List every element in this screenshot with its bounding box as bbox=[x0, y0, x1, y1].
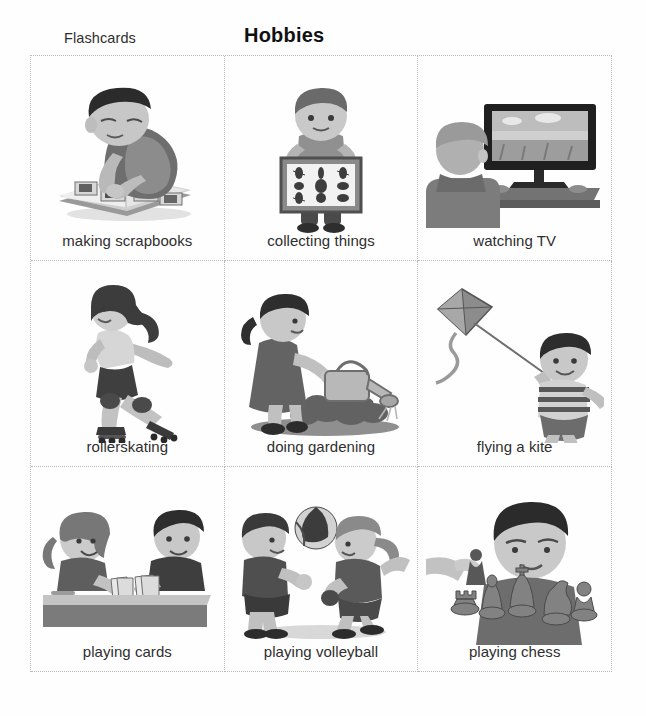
page-title: Hobbies bbox=[244, 24, 324, 47]
boy-insect-collection-illustration bbox=[225, 56, 418, 260]
flashcard-playing-volleyball[interactable]: playing volleyball bbox=[225, 467, 419, 672]
boy-scrapbook-illustration bbox=[31, 56, 224, 260]
girl-rollerskating-illustration bbox=[31, 261, 224, 465]
flashcard-label: watching TV bbox=[473, 233, 556, 248]
person-watching-television-illustration bbox=[418, 56, 611, 260]
flashcard-label: flying a kite bbox=[477, 439, 553, 454]
flashcards-label: Flashcards bbox=[64, 30, 136, 46]
flashcard-label: playing cards bbox=[83, 644, 172, 659]
flashcard-playing-cards[interactable]: playing cards bbox=[31, 467, 225, 672]
flashcard-grid: making scrapbooks bbox=[30, 55, 612, 672]
boy-flying-kite-illustration bbox=[418, 261, 611, 465]
two-children-playing-cards-illustration bbox=[31, 467, 224, 671]
flashcard-collecting-things[interactable]: collecting things bbox=[225, 56, 419, 261]
flashcard-watching-tv[interactable]: watching TV bbox=[418, 56, 612, 261]
boy-playing-chess-illustration bbox=[418, 467, 611, 671]
flashcard-label: collecting things bbox=[267, 233, 375, 248]
flashcard-sheet: Flashcards Hobbies bbox=[0, 0, 646, 716]
flashcard-flying-a-kite[interactable]: flying a kite bbox=[418, 261, 612, 466]
flashcard-label: making scrapbooks bbox=[62, 233, 192, 248]
flashcard-making-scrapbooks[interactable]: making scrapbooks bbox=[31, 56, 225, 261]
flashcard-rollerskating[interactable]: rollerskating bbox=[31, 261, 225, 466]
girl-watering-plants-illustration bbox=[225, 261, 418, 465]
flashcard-label: doing gardening bbox=[267, 439, 375, 454]
flashcard-label: playing volleyball bbox=[264, 644, 378, 659]
two-children-volleyball-illustration bbox=[225, 467, 418, 671]
flashcard-label: playing chess bbox=[469, 644, 561, 659]
header: Flashcards Hobbies bbox=[30, 26, 612, 54]
flashcard-playing-chess[interactable]: playing chess bbox=[418, 467, 612, 672]
flashcard-label: rollerskating bbox=[87, 439, 169, 454]
flashcard-doing-gardening[interactable]: doing gardening bbox=[225, 261, 419, 466]
